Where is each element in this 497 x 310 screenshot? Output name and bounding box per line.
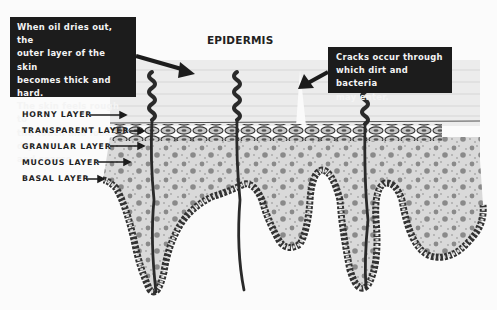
callout-line: outer layer of the skin bbox=[17, 47, 129, 73]
label-granular-layer: GRANULAR LAYER bbox=[22, 142, 111, 151]
label-mucous-layer: MUCOUS LAYER bbox=[22, 158, 100, 167]
mucous-layer bbox=[103, 137, 483, 292]
label-basal-layer: BASAL LAYER bbox=[22, 174, 89, 183]
epidermis-diagram: EPIDERMIS When oil dries out, the outer … bbox=[0, 0, 497, 310]
callout-line: becomes thick and hard. bbox=[17, 74, 129, 100]
callout-line: may enter. bbox=[336, 91, 444, 104]
callout-line: Cracks occur through bbox=[336, 51, 444, 64]
diagram-title: EPIDERMIS bbox=[207, 34, 273, 46]
callout-line: which dirt and bacteria bbox=[336, 64, 444, 90]
callout-line: When oil dries out, the bbox=[17, 21, 129, 47]
label-transparent-layer: TRANSPARENT LAYER bbox=[22, 126, 129, 135]
label-horny-layer: HORNY LAYER bbox=[22, 110, 92, 119]
callout-cracks: Cracks occur through which dirt and bact… bbox=[328, 47, 452, 93]
callout-oil-dries-out: When oil dries out, the outer layer of t… bbox=[10, 17, 136, 97]
granular-layer bbox=[112, 124, 442, 141]
